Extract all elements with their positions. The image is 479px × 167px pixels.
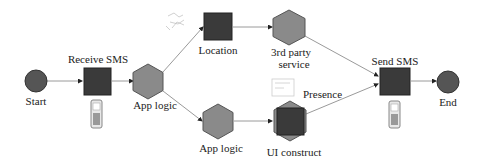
app-logic-1-node	[133, 64, 163, 99]
edge-thirdparty-sendsms	[305, 36, 378, 76]
location-node	[204, 13, 232, 40]
third-party-service-node	[273, 10, 305, 45]
presence-sketch-icon	[272, 79, 294, 96]
presence-label: Presence	[303, 88, 342, 100]
ui-construct-label: UI construct	[267, 146, 322, 158]
receive-sms-node	[84, 68, 111, 95]
app-logic-2-node	[203, 104, 233, 139]
edge-applogic1-location	[163, 27, 203, 72]
ui-construct-node	[274, 101, 306, 141]
third-party-label-line1: 3rd party	[271, 46, 311, 58]
send-sms-node	[380, 68, 410, 95]
send-sms-label: Send SMS	[372, 55, 419, 67]
mobile-phone-icon	[389, 101, 400, 128]
end-node	[437, 71, 459, 93]
app-logic-2-label: App logic	[199, 142, 243, 154]
end-label: End	[439, 96, 457, 108]
receive-sms-label: Receive SMS	[68, 53, 128, 65]
location-label: Location	[198, 44, 237, 56]
start-node	[25, 70, 47, 92]
start-label: Start	[26, 95, 47, 107]
mobile-phone-icon	[91, 100, 102, 128]
app-logic-1-label: App logic	[133, 99, 177, 111]
map-sketch-icon	[166, 13, 184, 30]
third-party-label-line2: service	[278, 58, 309, 70]
